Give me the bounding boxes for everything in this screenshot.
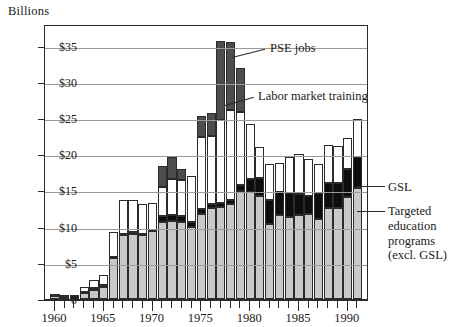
bar-1969 [138,204,147,299]
bar-segment [265,200,274,225]
bar-segment [314,164,323,194]
bar-segment [177,222,186,299]
bar-segment [128,200,137,233]
bar-segment [99,275,108,285]
bar-segment [158,166,167,187]
bar-segment [285,193,294,216]
bar-segment [80,293,89,299]
bar-1970 [148,203,157,299]
bar-1963 [80,287,89,299]
bar-segment [265,164,274,199]
x-axis-tick-label: 1965 [90,311,115,326]
plot-area [44,25,368,300]
bar-segment [255,178,264,196]
x-axis-tick-mark [64,300,65,308]
bar-segment [246,192,255,299]
bar-1976 [207,113,216,299]
bar-1973 [177,169,186,299]
bar-segment [304,159,313,196]
bar-1977 [216,41,225,299]
bar-segment [89,290,98,299]
gridline [45,192,367,193]
bar-segment [246,124,255,179]
x-axis-tick-label: 1975 [188,311,213,326]
x-axis-tick-mark [161,300,162,308]
bar-segment [89,280,98,288]
y-axis-tick-label: $15 [41,184,77,199]
bar-1975 [197,116,206,299]
bar-segment [167,221,176,299]
bar-1988 [324,145,333,299]
bar-segment [343,197,352,299]
bar-segment [197,137,206,209]
x-axis-tick-mark [210,300,211,308]
bar-segment [207,113,216,136]
bar-segment [158,222,167,299]
bar-segment [226,204,235,299]
bar-segment [333,183,342,208]
x-axis-tick-label: 1985 [285,311,310,326]
x-axis-tick-mark [230,300,231,308]
x-axis-tick-label: 1960 [41,311,66,326]
bar-segment [285,157,294,193]
x-axis-tick-mark [122,300,123,308]
bar-segment [333,146,342,182]
bar-segment [167,157,176,179]
x-axis-tick-mark [239,300,240,308]
annotation-labor-market-training: Labor market training [258,89,368,104]
x-axis-tick-mark [113,300,114,308]
y-axis-tick-mark [38,83,44,84]
y-axis-tick-label: $20 [41,148,77,163]
x-axis-tick-label: 1970 [139,311,164,326]
x-axis-tick-mark [347,300,348,311]
bar-segment [128,234,137,299]
bar-segment [187,227,196,299]
bar-segment [167,179,176,215]
bar-segment [216,203,225,207]
x-axis-tick-mark [317,300,318,308]
bar-segment [177,169,186,181]
leader-line-targeted [357,211,385,212]
bar-segment [99,287,108,299]
x-axis-tick-mark [337,300,338,308]
bar-segment [226,200,235,204]
bar-segment [324,208,333,299]
chart-figure: Billions 0$5$10$15$20$25$30$35 196019651… [0,0,451,327]
gridline [45,48,367,49]
bar-segment [304,196,313,215]
bar-segment [304,214,313,299]
bar-segment [236,112,245,186]
bar-segment [343,138,352,170]
y-axis-tick-mark [38,155,44,156]
bar-segment [148,203,157,229]
x-axis-tick-mark [152,300,153,311]
bar-segment [324,183,333,208]
bar-series-container [45,26,367,299]
x-axis-tick-mark [103,300,104,311]
y-axis-tick-mark [38,191,44,192]
bar-segment [197,209,206,213]
x-axis-tick-mark [249,300,250,311]
x-axis-tick-mark [142,300,143,308]
bar-segment [207,208,216,299]
y-axis-tick-label: $35 [41,39,77,54]
bar-segment [216,41,225,121]
x-axis-tick-mark [356,300,357,308]
x-axis-tick-label: 1980 [237,311,262,326]
bar-segment [275,192,284,215]
x-axis-tick-mark [220,300,221,308]
bar-segment [333,208,342,299]
y-axis-tick-mark [38,264,44,265]
bar-segment [236,191,245,299]
bar-1968 [128,200,137,299]
bar-segment [314,219,323,299]
bar-1967 [119,200,128,299]
gridline [45,120,367,121]
bar-segment [314,193,323,218]
bar-segment [177,180,186,215]
bar-segment [255,147,264,178]
bar-segment [109,232,118,257]
bar-segment [294,194,303,215]
y-axis-tick-label: $10 [41,220,77,235]
x-axis-tick-mark [327,300,328,308]
